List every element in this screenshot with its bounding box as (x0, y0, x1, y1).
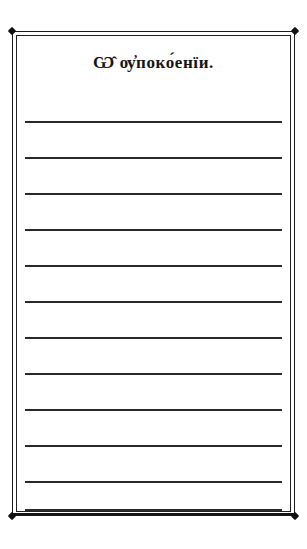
frame-inner-rule (16, 35, 291, 512)
corner-ornament-bottom-right (291, 512, 299, 520)
ruled-writing-page: Ѡ̂ ѹ҆поко́енїи. (0, 0, 307, 549)
page-title: Ѡ̂ ѹ҆поко́енїи. (16, 52, 291, 74)
